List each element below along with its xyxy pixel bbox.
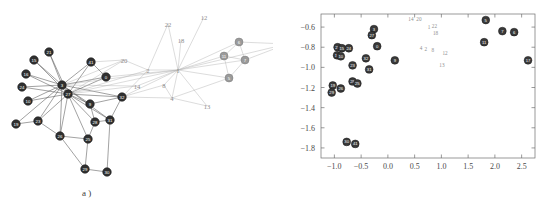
graph-node: 24 — [18, 83, 27, 92]
scatter-point: 0 — [373, 42, 381, 50]
scatter-point-label: 30 — [344, 139, 349, 144]
panel-a-network-graph: 2115162410192332726252892930313204161175… — [0, 0, 273, 219]
panel-a-caption: a ) — [82, 188, 91, 198]
scatter-point: 31 — [365, 65, 373, 73]
graph-node: 27 — [64, 90, 73, 99]
y-axis-tick-label: −1.4 — [300, 104, 315, 113]
scatter-point: 10 — [337, 52, 345, 60]
x-axis-tick-label: 2.0 — [490, 162, 500, 171]
graph-node: 28 — [91, 118, 100, 127]
scatter-point-label: 32 — [364, 56, 369, 61]
scatter-point: 27 — [368, 31, 376, 39]
graph-node-label: 31 — [108, 118, 113, 123]
graph-node: 25 — [84, 135, 93, 144]
scatter-text-label: 1 — [428, 24, 431, 30]
graph-node-label: 41 — [89, 60, 94, 65]
x-axis-tick-label: 0.5 — [410, 162, 420, 171]
scatter-point-label: 19 — [330, 83, 335, 88]
scatter-text-label: 20 — [416, 16, 422, 22]
graph-node-label: 11 — [222, 54, 227, 59]
y-axis-tick-label: −0.6 — [300, 23, 315, 32]
scatter-plot-svg: −1.0−0.50.00.51.01.52.02.5 −0.6−0.8−1.0−… — [273, 0, 546, 219]
graph-node: 3 — [58, 81, 67, 90]
scatter-point-label: 23 — [350, 63, 355, 68]
graph-node: 5 — [225, 74, 233, 82]
graph-free-label: 18 — [178, 37, 185, 44]
scatter-point: 6 — [510, 28, 518, 36]
x-axis-tick-label: −1.0 — [327, 162, 342, 171]
plot-frame — [321, 14, 535, 158]
graph-node-label: 25 — [86, 137, 91, 142]
scatter-text-label: 4 — [420, 45, 423, 51]
scatter-point-label: 41 — [353, 141, 358, 146]
graph-node: 0 — [102, 73, 111, 82]
scatter-text-label: 2 — [425, 46, 428, 52]
scatter-point: 29 — [328, 89, 336, 97]
graph-node: 32 — [118, 93, 127, 102]
y-axis-tick-label: −1.8 — [300, 144, 315, 153]
graph-node: 41 — [87, 58, 96, 67]
graph-node-label: 29 — [83, 167, 88, 172]
x-axis-tick-label: 0.0 — [383, 162, 393, 171]
graph-free-label: 13 — [204, 103, 211, 110]
y-axis-tick-label: −1.2 — [300, 84, 315, 93]
graph-node: 19 — [12, 120, 21, 129]
scatter-point: 5 — [482, 16, 490, 24]
scatter-point: 23 — [349, 61, 357, 69]
scatter-point-label: 31 — [367, 67, 372, 72]
graph-free-label: 2 — [146, 67, 149, 74]
x-axis-tick-label: 1.5 — [463, 162, 473, 171]
scatter-point: 9 — [391, 56, 399, 64]
graph-node: 30 — [103, 168, 112, 177]
scatter-point: 41 — [351, 140, 359, 148]
graph-node: 21 — [45, 48, 54, 57]
scatter-point: 17 — [524, 56, 532, 64]
scatter-text-label: 18 — [433, 30, 439, 36]
scatter-text-label: 13 — [439, 62, 445, 68]
graph-node-label: 19 — [14, 122, 19, 127]
graph-node: 10 — [24, 97, 33, 106]
scatter-point-label: 29 — [329, 90, 334, 95]
graph-node-label: 28 — [93, 120, 98, 125]
y-axis-tick-label: −1.0 — [300, 63, 315, 72]
graph-node: 15 — [30, 56, 39, 65]
scatter-point: 11 — [480, 38, 488, 46]
scatter-text-label: 12 — [443, 50, 449, 56]
scatter-point: 32 — [362, 54, 370, 62]
scatter-point: 15 — [338, 44, 346, 52]
scatter-point-label: 27 — [369, 33, 374, 38]
graph-free-label: 1 — [176, 67, 179, 74]
scatter-point-label: 26 — [338, 86, 343, 91]
graph-node-label: 16 — [24, 72, 29, 77]
scatter-point: 7 — [498, 27, 506, 35]
scatter-point-label: 11 — [482, 40, 487, 45]
graph-node-label: 26 — [58, 134, 63, 139]
graph-node-label: 10 — [26, 99, 31, 104]
graph-free-label: 14 — [134, 83, 141, 90]
graph-node: 7 — [241, 56, 249, 64]
graph-node-label: 27 — [66, 92, 71, 97]
scatter-text-label: 8 — [432, 47, 435, 53]
scatter-point-label: 25 — [355, 81, 360, 86]
network-graph-svg: 2115162410192332726252892930313204161175… — [0, 0, 273, 219]
graph-node-label: 24 — [20, 85, 25, 90]
graph-node: 9 — [86, 100, 95, 109]
graph-edge-layer — [16, 17, 273, 172]
graph-node-label: 21 — [47, 50, 52, 55]
x-axis-tick-label: −0.5 — [354, 162, 369, 171]
scatter-point-label: 17 — [526, 58, 531, 63]
graph-node: 11 — [220, 52, 228, 60]
scatter-point: 19 — [329, 82, 337, 90]
graph-node-label: 15 — [32, 58, 37, 63]
graph-node: 16 — [22, 70, 31, 79]
graph-free-label: 22 — [165, 21, 172, 28]
scatter-point: 26 — [337, 85, 345, 93]
x-axis-tick-label: 1.0 — [436, 162, 446, 171]
y-axis-tick-label: −0.8 — [300, 43, 315, 52]
graph-node-label: 23 — [36, 119, 41, 124]
scatter-point-label: 15 — [340, 46, 345, 51]
graph-free-label: 20 — [121, 57, 128, 64]
figure-container: 2115162410192332726252892930313204161175… — [0, 0, 546, 219]
scatter-point: 25 — [353, 80, 361, 88]
scatter-point: 24 — [345, 44, 353, 52]
